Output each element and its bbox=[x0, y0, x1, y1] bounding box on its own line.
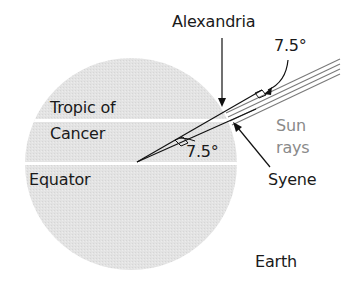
label-angle-center: 7.5° bbox=[186, 144, 219, 160]
label-sun-line1: Sun bbox=[276, 118, 306, 134]
label-earth: Earth bbox=[255, 254, 297, 270]
tropic-of-cancer-line bbox=[20, 119, 250, 122]
label-equator: Equator bbox=[29, 172, 90, 188]
syene-pointer bbox=[233, 122, 270, 167]
label-tropic-line2: Cancer bbox=[50, 126, 105, 142]
label-tropic-line1: Tropic of bbox=[50, 100, 116, 116]
label-angle-top: 7.5° bbox=[274, 38, 307, 54]
alexandria-pointer bbox=[218, 38, 226, 107]
eratosthenes-diagram: Alexandria 7.5° Tropic of Cancer 7.5° Su… bbox=[0, 0, 356, 287]
label-syene: Syene bbox=[268, 172, 316, 188]
label-sun-line2: rays bbox=[276, 140, 309, 156]
equator-line bbox=[20, 162, 250, 165]
label-alexandria: Alexandria bbox=[172, 14, 255, 30]
